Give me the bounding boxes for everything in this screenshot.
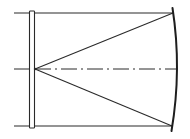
diagram-canvas bbox=[0, 0, 190, 139]
upper-ray bbox=[35, 13, 173, 69]
lower-ray bbox=[35, 69, 172, 126]
diagram-svg bbox=[0, 0, 190, 139]
plate bbox=[30, 11, 35, 128]
apex-point bbox=[34, 68, 36, 70]
